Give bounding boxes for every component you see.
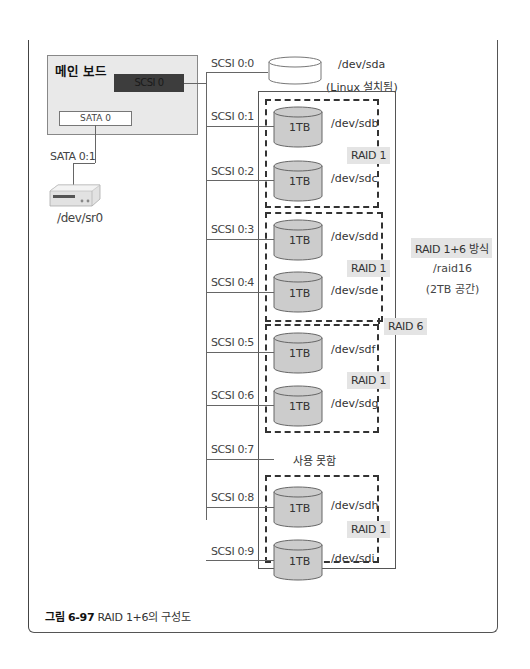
scsi-port-label: SCSI 0:5 <box>211 336 254 349</box>
scsi-port-label: SCSI 0:8 <box>211 491 254 504</box>
disk-size: 1TB <box>289 347 310 360</box>
scsi-link <box>206 352 274 353</box>
scsi-port-label: SCSI 0:7 <box>211 443 254 456</box>
disk-size: 1TB <box>289 502 310 515</box>
system-disk-device: /dev/sda <box>338 58 385 71</box>
figure-title: RAID 1+6의 구성도 <box>94 611 190 624</box>
disk-device: /dev/sdd <box>331 230 378 243</box>
scsi-link <box>206 126 274 127</box>
sata-device: /dev/sr0 <box>57 211 103 225</box>
scsi-controller: SCSI 0 <box>114 74 184 92</box>
raid1-label: RAID 1 <box>347 260 390 277</box>
scsi-bus <box>206 72 207 520</box>
disk-size: 1TB <box>289 287 310 300</box>
disk-device: /dev/sdc <box>331 172 377 185</box>
sata-cable <box>73 163 95 164</box>
sata-port-label: SATA 0:1 <box>50 150 95 163</box>
scsi-cable <box>184 83 206 84</box>
scsi-link <box>206 239 274 240</box>
scsi-link <box>206 292 274 293</box>
raid1-label: RAID 1 <box>347 521 390 538</box>
scsi-port-label: SCSI 0:4 <box>211 276 254 289</box>
disk-size: 1TB <box>289 121 310 134</box>
unused-port-note: 사용 못함 <box>293 452 337 468</box>
raid1-label: RAID 1 <box>347 372 390 389</box>
sata-controller: SATA 0 <box>59 111 132 126</box>
scsi-port-label: SCSI 0:2 <box>211 165 254 178</box>
scsi-link <box>206 507 274 508</box>
scsi-link <box>206 405 274 406</box>
raid6-label: RAID 6 <box>384 318 427 335</box>
array-capacity: (2TB 공간) <box>405 280 500 296</box>
figure-caption: 그림 6-97 RAID 1+6의 구성도 <box>45 608 190 624</box>
disk-device: /dev/sdh <box>331 499 378 512</box>
disk-size: 1TB <box>289 400 310 413</box>
system-disk-icon <box>267 56 323 86</box>
figure-number: 그림 6-97 <box>45 611 94 624</box>
scsi-port-label: SCSI 0:6 <box>211 389 254 402</box>
scsi-port-label: SCSI 0:1 <box>211 110 254 123</box>
main-board-title: 메인 보드 <box>55 61 107 80</box>
scsi-link <box>206 180 274 181</box>
raid6-bracket <box>378 318 380 324</box>
array-device: /raid16 <box>405 262 500 275</box>
raid1-label: RAID 1 <box>347 147 390 164</box>
disk-device: /dev/sde <box>331 284 378 297</box>
scsi-port-label: SCSI 0:0 <box>211 57 254 70</box>
disk-size: 1TB <box>289 555 310 568</box>
sata-cable <box>73 163 74 185</box>
disk-device: /dev/sdb <box>331 117 378 130</box>
scsi-port-label: SCSI 0:9 <box>211 545 254 558</box>
disk-device: /dev/sdf <box>331 343 375 356</box>
disk-size: 1TB <box>289 175 310 188</box>
scsi-link <box>206 72 268 73</box>
scsi-link <box>206 459 274 460</box>
disk-device: /dev/sdi <box>331 552 374 565</box>
array-method: RAID 1+6 방식 <box>411 238 492 258</box>
scsi-link <box>206 560 274 561</box>
optical-drive-icon <box>48 183 103 209</box>
scsi-port-label: SCSI 0:3 <box>211 223 254 236</box>
disk-device: /dev/sdg <box>331 397 378 410</box>
disk-size: 1TB <box>289 234 310 247</box>
